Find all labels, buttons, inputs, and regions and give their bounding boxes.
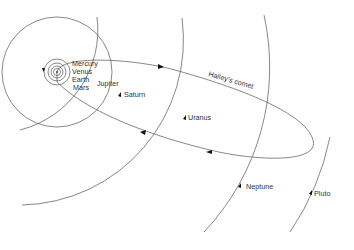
uranus-orbit — [22, 18, 183, 205]
comet-arrow-outbound-icon — [158, 64, 164, 69]
label-saturn: Saturn — [124, 90, 145, 99]
label-pluto: Pluto — [314, 189, 330, 198]
label-mars: Mars — [73, 83, 89, 92]
comet-arrow-return-icon — [140, 130, 146, 135]
mars-arrow-icon — [42, 68, 45, 72]
halleys-comet-orbit — [57, 60, 313, 158]
solar-system-diagram: Mercury Venus Earth Mars Jupiter Saturn … — [0, 0, 354, 250]
pluto-orbit — [290, 137, 330, 232]
label-uranus: Uranus — [188, 113, 212, 122]
pluto-arrow-icon — [309, 190, 312, 195]
saturn-arrow-icon — [118, 92, 121, 97]
label-neptune: Neptune — [246, 182, 273, 191]
label-jupiter: Jupiter — [97, 79, 119, 88]
uranus-arrow-icon — [183, 115, 186, 120]
comet-arrow-return2-icon — [206, 150, 212, 154]
neptune-orbit — [204, 15, 270, 232]
